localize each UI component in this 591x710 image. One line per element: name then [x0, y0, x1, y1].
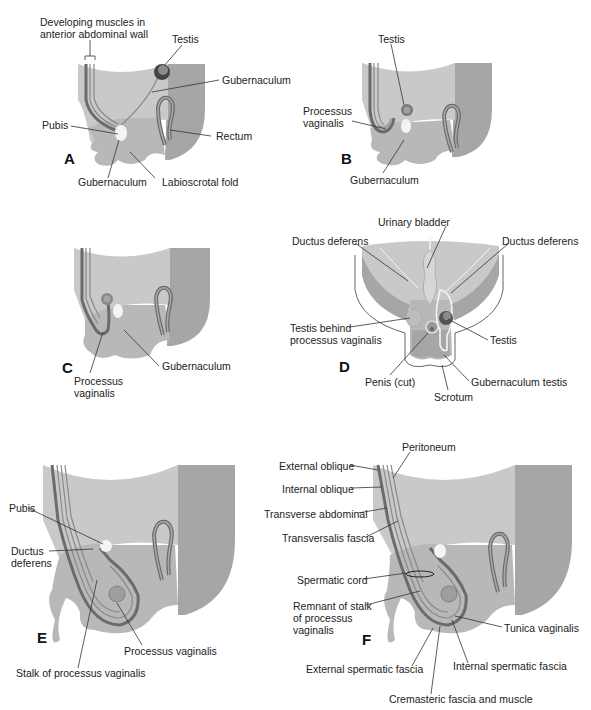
- label-ductus-deferens-left: Ductus deferens: [292, 235, 368, 247]
- label-scrotum: Scrotum: [434, 391, 473, 403]
- label-gubernaculum-a-lower: Gubernaculum: [78, 176, 147, 188]
- label-testis-d: Testis: [490, 334, 517, 346]
- label-pubis-e: Pubis: [9, 502, 35, 514]
- label-internal-spermatic-fascia: Internal spermatic fascia: [453, 660, 567, 672]
- panel-letter-c: C: [62, 359, 73, 376]
- label-testis-b: Testis: [378, 33, 405, 45]
- panel-letter-e: E: [37, 629, 47, 646]
- label-ductus-deferens-e: Ductus deferens: [11, 545, 52, 569]
- label-testis-a: Testis: [172, 33, 199, 45]
- panel-f: [350, 452, 572, 694]
- label-rectum: Rectum: [216, 130, 252, 142]
- panel-b: [352, 44, 492, 173]
- panel-a: [71, 40, 219, 178]
- label-labioscrotal-fold: Labioscrotal fold: [162, 176, 238, 188]
- label-processus-vaginalis-e: Processus vaginalis: [124, 645, 217, 657]
- label-peritoneum: Peritoneum: [402, 441, 456, 453]
- label-pubis-a: Pubis: [42, 119, 68, 131]
- label-stalk-processus-vaginalis: Stalk of processus vaginalis: [16, 667, 146, 679]
- label-spermatic-cord: Spermatic cord: [297, 574, 368, 586]
- label-cremasteric-fascia: Cremasteric fascia and muscle: [389, 693, 533, 705]
- label-urinary-bladder: Urinary bladder: [378, 216, 450, 228]
- label-gubernaculum-b: Gubernaculum: [350, 174, 419, 186]
- label-transverse-abdominal: Transverse abdominal: [264, 508, 368, 520]
- label-external-oblique: External oblique: [279, 460, 354, 472]
- label-gubernaculum-a-upper: Gubernaculum: [222, 74, 291, 86]
- label-internal-oblique: Internal oblique: [282, 483, 354, 495]
- label-gubernaculum-testis: Gubernaculum testis: [471, 376, 567, 388]
- label-tunica-vaginalis: Tunica vaginalis: [504, 622, 579, 634]
- label-testis-behind-processus: Testis behind processus vaginalis: [290, 322, 382, 346]
- label-penis-cut: Penis (cut): [365, 376, 415, 388]
- label-processus-vaginalis-c: Processus vaginalis: [74, 375, 123, 399]
- label-ductus-deferens-right: Ductus deferens: [502, 235, 578, 247]
- label-gubernaculum-c: Gubernaculum: [162, 360, 231, 372]
- panel-letter-d: D: [339, 358, 350, 375]
- panel-c: [74, 248, 210, 373]
- panel-d: [350, 226, 509, 390]
- label-processus-vaginalis-b: Processus vaginalis: [303, 105, 352, 129]
- panel-letter-a: A: [64, 150, 75, 167]
- label-developing-muscles: Developing muscles in anterior abdominal…: [40, 16, 148, 40]
- label-external-spermatic-fascia: External spermatic fascia: [306, 663, 423, 675]
- label-transversalis-fascia: Transversalis fascia: [282, 532, 374, 544]
- panel-letter-b: B: [341, 150, 352, 167]
- label-remnant-stalk: Remnant of stalk of processus vaginalis: [293, 600, 372, 636]
- panel-e: [28, 465, 235, 668]
- panel-letter-f: F: [362, 631, 371, 648]
